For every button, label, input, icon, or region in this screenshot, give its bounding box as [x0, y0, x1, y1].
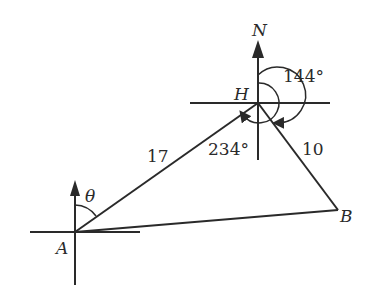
- bearing-diagram: N H A B 144° 234° θ 17 10: [0, 0, 372, 297]
- point-h-label: H: [233, 84, 250, 104]
- angle-arc-theta: [75, 205, 96, 216]
- angle-144-label: 144°: [283, 66, 324, 86]
- north-arrow-icon: [252, 40, 264, 58]
- side-hb-length: 10: [302, 139, 324, 159]
- angle-theta-label: θ: [85, 186, 95, 206]
- diagram-svg: N H A B 144° 234° θ 17 10: [0, 0, 372, 297]
- point-a-label: A: [54, 238, 68, 258]
- side-ab: [75, 210, 338, 232]
- angle-234-label: 234°: [208, 139, 249, 159]
- a-north-arrow-icon: [70, 180, 80, 196]
- north-label: N: [251, 20, 268, 40]
- side-ah-length: 17: [147, 146, 169, 166]
- point-b-label: B: [339, 206, 353, 226]
- side-ah: [75, 103, 258, 232]
